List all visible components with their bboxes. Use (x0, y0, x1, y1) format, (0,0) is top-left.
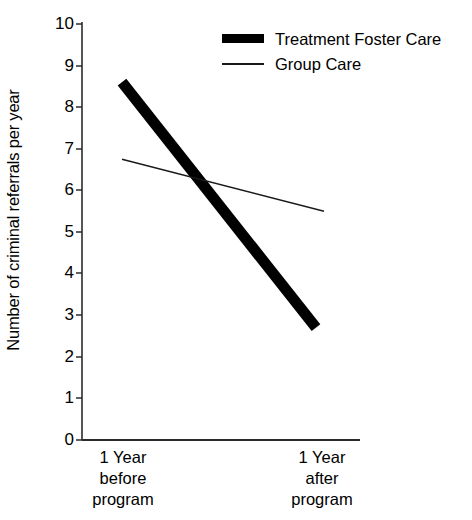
x-category-label-before: 1 Year before program (63, 447, 183, 510)
thin-line-swatch-icon (220, 63, 266, 65)
x-category-label-after: 1 Year after program (262, 447, 382, 510)
plot-area (0, 0, 472, 520)
legend-item-group-care: Group Care (220, 51, 470, 76)
x-category-line-1: 1 Year (262, 447, 382, 468)
y-axis-ticks (76, 24, 82, 440)
legend-label: Group Care (266, 55, 361, 73)
series-line-treatment-foster-care (122, 82, 316, 328)
thick-bar-swatch-icon (220, 34, 266, 43)
x-category-line-1: 1 Year (63, 447, 183, 468)
chart-figure: Number of criminal referrals per year 10… (0, 0, 472, 520)
x-category-line-3: program (262, 489, 382, 510)
legend-label: Treatment Foster Care (266, 30, 441, 48)
x-category-line-2: after (262, 468, 382, 489)
legend-item-treatment-foster-care: Treatment Foster Care (220, 26, 470, 51)
x-category-line-3: program (63, 489, 183, 510)
chart-legend: Treatment Foster Care Group Care (220, 26, 470, 76)
x-category-line-2: before (63, 468, 183, 489)
